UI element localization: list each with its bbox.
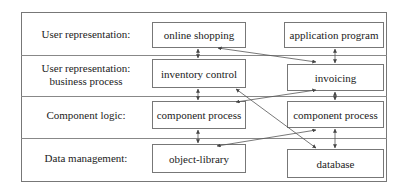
box-invoicing: invoicing <box>287 64 384 91</box>
row-label-business-process: User representation: business process <box>22 62 150 88</box>
box-label: online shopping <box>164 29 235 41</box>
box-label: component process <box>293 109 378 121</box>
box-label: component process <box>157 109 242 121</box>
box-component-process-right: component process <box>287 101 384 128</box>
row-label-text: User representation: <box>22 62 150 75</box>
box-database: database <box>287 149 384 178</box>
box-object-library: object-library <box>152 144 246 173</box>
row-divider <box>21 138 387 139</box>
box-label: inventory control <box>161 68 237 80</box>
row-label-component-logic: Component logic: <box>22 109 150 122</box>
box-label: application program <box>290 29 379 41</box>
row-label-data-management: Data management: <box>22 152 150 165</box>
row-label-text: Data management: <box>45 152 128 164</box>
row-divider <box>21 55 387 56</box>
box-label: database <box>317 158 355 170</box>
box-online-shopping: online shopping <box>152 22 246 48</box>
row-label-text: Component logic: <box>46 109 125 121</box>
box-application-program: application program <box>284 22 384 48</box>
box-inventory-control: inventory control <box>152 59 246 88</box>
row-label-text-line2: business process <box>22 75 150 88</box>
row-divider <box>21 96 387 97</box>
box-label: invoicing <box>315 72 357 84</box>
box-component-process-left: component process <box>152 101 246 129</box>
row-label-user-representation: User representation: <box>22 28 150 41</box>
box-label: object-library <box>169 153 229 165</box>
row-label-text: User representation: <box>42 28 131 40</box>
